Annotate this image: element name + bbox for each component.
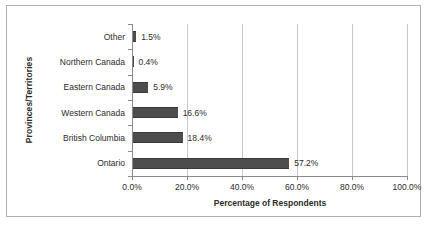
bars-layer: 1.5%0.4%5.9%16.6%18.4%57.2%: [132, 24, 407, 176]
y-axis-title: Provinces/Territories: [21, 24, 37, 176]
x-axis-tick: [407, 176, 408, 180]
category-label: Ontario: [37, 151, 129, 176]
chart-frame: Provinces/Territories OtherNorthern Cana…: [6, 5, 421, 217]
x-axis-tick: [132, 176, 133, 180]
bar-row: 16.6%: [132, 100, 407, 125]
bar-value-label: 0.4%: [139, 57, 158, 67]
x-axis-line: [132, 176, 408, 177]
bar: [132, 132, 183, 143]
x-axis-tick: [352, 176, 353, 180]
category-label: Western Canada: [37, 100, 129, 125]
bar: [132, 158, 289, 169]
plot-area: 1.5%0.4%5.9%16.6%18.4%57.2%: [132, 24, 407, 176]
bar-value-label: 16.6%: [183, 108, 207, 118]
bar: [132, 82, 148, 93]
x-axis-tick: [297, 176, 298, 180]
x-axis-tick-label: 60.0%: [285, 182, 309, 192]
bar-value-label: 5.9%: [153, 82, 172, 92]
bar-row: 18.4%: [132, 125, 407, 150]
gridline: [407, 24, 408, 176]
x-axis-tick: [242, 176, 243, 180]
bar-value-label: 1.5%: [141, 32, 160, 42]
x-axis-tick-label: 20.0%: [175, 182, 199, 192]
value-axis-line: [132, 24, 133, 176]
bar-row: 57.2%: [132, 151, 407, 176]
bar-value-label: 57.2%: [294, 158, 318, 168]
x-axis-tick-label: 100.0%: [393, 182, 422, 192]
y-axis-tick: [128, 176, 132, 177]
x-axis-tick-label: 0.0%: [122, 182, 141, 192]
category-axis-labels: OtherNorthern CanadaEastern CanadaWester…: [37, 24, 129, 176]
bar-row: 5.9%: [132, 75, 407, 100]
y-axis-title-label: Provinces/Territories: [24, 57, 34, 144]
category-label: Other: [37, 24, 129, 49]
bar-value-label: 18.4%: [188, 133, 212, 143]
category-label: British Columbia: [37, 125, 129, 150]
category-label: Northern Canada: [37, 49, 129, 74]
bar-row: 0.4%: [132, 49, 407, 74]
bar: [132, 107, 178, 118]
x-axis-tick: [187, 176, 188, 180]
x-axis-title: Percentage of Respondents: [132, 198, 408, 208]
x-axis-tick-label: 80.0%: [340, 182, 364, 192]
x-axis-tick-label: 40.0%: [230, 182, 254, 192]
bar-row: 1.5%: [132, 24, 407, 49]
category-label: Eastern Canada: [37, 75, 129, 100]
x-axis-tick-labels: 0.0%20.0%40.0%60.0%80.0%100.0%: [132, 182, 408, 194]
